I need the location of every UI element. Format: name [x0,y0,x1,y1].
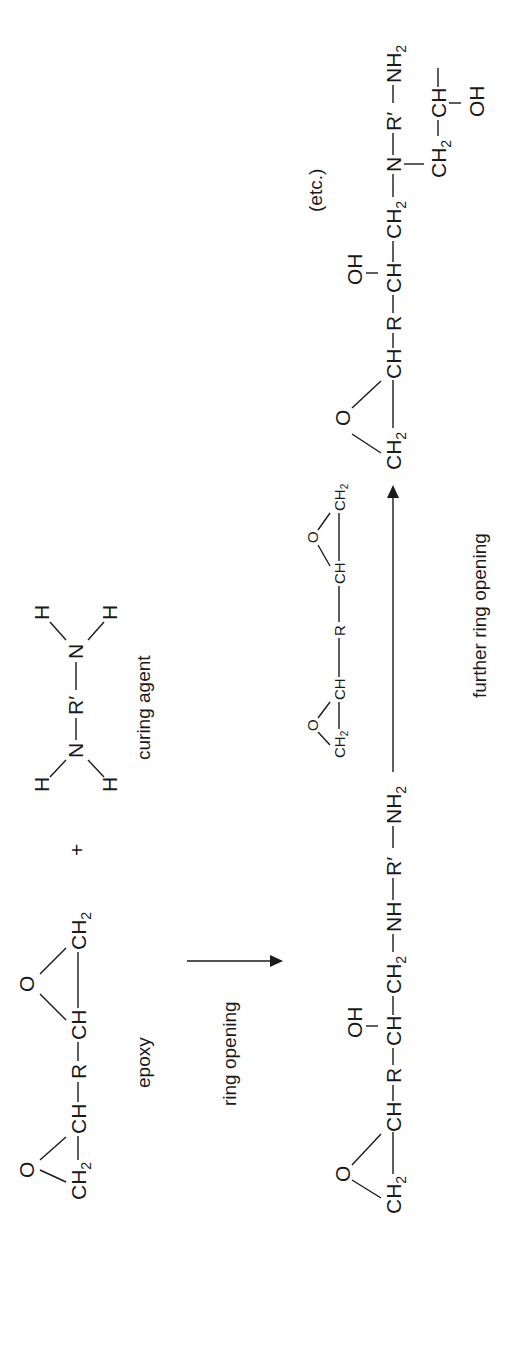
atom-ch2: CH2 [382,1176,409,1214]
atom-ch: CH [67,1104,90,1134]
reaction-scheme: CH2 O CH R CH O CH2 epoxy + H H N R′ N H… [0,0,516,1358]
bond [318,732,330,745]
bond [40,994,66,1020]
atom-ch2: CH2 [67,912,94,950]
atom-nh2: NH2 [382,786,409,824]
further-ring-opening-arrow [387,485,399,772]
atom-ch2: CH2 [331,730,350,758]
atom-n: N [64,743,87,758]
atom-nh: NH [382,902,405,932]
further-epoxy-reagent: CH2 O CH R CH O CH2 [304,483,350,758]
atom-ch2: CH2 [382,432,409,470]
atom-n: N [64,644,87,659]
etc-label: (etc.) [305,169,326,212]
atom-ch: CH [331,562,348,584]
atom-n: N [382,157,405,172]
atom-ch: CH [382,349,405,379]
atom-o: O [331,410,354,426]
atom-ch2: CH2 [67,1162,94,1200]
atom-ch2: CH2 [427,140,454,178]
atom-ch2: CH2 [382,956,409,994]
atom-h: H [30,605,53,620]
atom-r-prime: R′ [64,696,87,715]
bond [352,434,381,453]
atom-ch: CH [382,263,405,293]
bond [88,760,104,777]
atom-ch2: CH2 [331,483,350,511]
arrow-head-icon [270,955,283,967]
plus-sign: + [65,844,88,856]
bond [352,1180,381,1198]
curing-agent-molecule: H H N R′ N H H [30,605,121,792]
epoxy-label: epoxy [133,1037,154,1088]
atom-h: H [30,777,53,792]
reaction-diagram-svg: CH2 O CH R CH O CH2 epoxy + H H N R′ N H… [0,0,516,1358]
atom-ch2: CH2 [382,201,409,239]
atom-oh: OH [465,86,488,118]
atom-ch: CH [382,1016,405,1046]
atom-ch: CH [67,1010,90,1040]
product-1-molecule: CH2 O CH R CH OH CH2 NH R′ NH2 [331,786,409,1214]
atom-r: R [382,316,405,331]
atom-h: H [98,605,121,620]
curing-agent-label: curing agent [133,655,154,760]
epoxy-molecule: CH2 O CH R CH O CH2 [15,912,94,1200]
bond [40,1137,66,1160]
bond [318,702,330,718]
atom-o: O [304,531,321,543]
atom-nh2: NH2 [382,45,409,83]
atom-ch: CH [331,678,348,700]
product-2-molecule: CH2 O CH R CH OH CH2 N R′ NH2 CH2 CH OH [331,45,488,470]
ring-opening-label: ring opening [219,1001,240,1106]
atom-r-prime: R′ [382,112,405,131]
atom-o: O [331,1166,354,1182]
bond [318,545,330,566]
bond [352,381,381,408]
atom-o: O [15,976,38,992]
bond [50,760,66,777]
further-ring-opening-label: further ring opening [469,533,490,698]
atom-o: O [304,719,321,731]
atom-r-prime: R′ [382,857,405,876]
atom-oh: OH [343,254,366,286]
atom-r: R [382,1068,405,1083]
atom-ch: CH [382,1102,405,1132]
atom-r: R [67,1064,90,1079]
ring-opening-arrow [187,955,283,967]
atom-oh: OH [343,1007,366,1039]
atom-o: O [15,1162,38,1178]
atom-h: H [98,777,121,792]
bond [352,1134,381,1165]
bond [50,622,66,640]
bond [40,1170,66,1182]
arrow-head-icon [387,485,399,498]
atom-ch: CH [427,88,450,118]
atom-r: R [331,625,348,636]
bond [318,513,330,530]
bond [88,622,104,640]
bond [40,948,66,974]
